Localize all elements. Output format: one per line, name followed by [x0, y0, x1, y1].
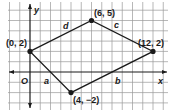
vertex-label-12-2: (12, 2) — [138, 38, 164, 48]
vertex-label-0-2: (0, 2) — [6, 38, 27, 48]
side-label-d: d — [63, 21, 69, 31]
vertex-dot — [150, 49, 155, 54]
y-axis-label: y — [33, 5, 40, 15]
x-axis — [9, 70, 167, 74]
side-label-b: b — [115, 76, 121, 86]
side-label-a: a — [44, 76, 49, 86]
x-axis-label: x — [157, 76, 164, 86]
coordinate-plane-figure: y x O (0, 2) (6, 5) (12, 2) (4, −2) d c … — [0, 0, 173, 112]
vertex-label-4-neg2: (4, −2) — [73, 95, 99, 105]
y-axis-up-arrow-icon — [28, 4, 32, 9]
vertex-label-6-5: (6, 5) — [94, 8, 115, 18]
vertex-dot — [89, 18, 94, 23]
origin-label: O — [21, 76, 28, 86]
side-label-c: c — [114, 20, 119, 30]
x-axis-right-arrow-icon — [162, 70, 167, 74]
vertex-dot — [27, 49, 32, 54]
y-axis-down-arrow-icon — [28, 103, 32, 108]
